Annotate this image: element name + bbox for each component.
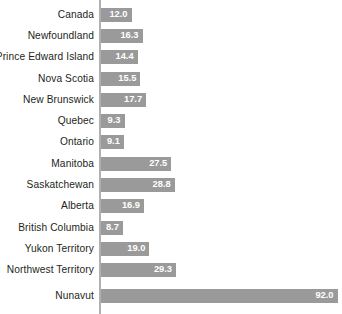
bar-value-label: 28.8 <box>153 180 171 189</box>
category-label: British Columbia <box>18 222 94 232</box>
bar-value-label: 29.3 <box>154 266 172 275</box>
bar-value-label: 27.5 <box>149 159 167 168</box>
category-label: Ontario <box>60 137 94 147</box>
bar: 19.0 <box>101 242 150 256</box>
table-row: Canada 12.0 <box>0 8 342 22</box>
category-label: Saskatchewan <box>27 180 94 190</box>
category-label: Alberta <box>61 201 94 211</box>
bar-value-label: 12.0 <box>109 10 127 19</box>
bar: 14.4 <box>101 50 138 64</box>
table-row: Quebec 9.3 <box>0 114 342 128</box>
table-row: Manitoba 27.5 <box>0 157 342 171</box>
category-label: Quebec <box>58 116 94 126</box>
bar: 9.3 <box>101 114 125 128</box>
bar: 15.5 <box>101 72 141 86</box>
bar-chart: Canada 12.0 Newfoundland 16.3 Prince Edw… <box>0 0 342 314</box>
bar: 17.7 <box>101 93 147 107</box>
bar-value-label: 16.9 <box>122 202 140 211</box>
table-row: British Columbia 8.7 <box>0 221 342 235</box>
category-label: Prince Edward Island <box>0 52 94 62</box>
category-label: Yukon Territory <box>25 244 94 254</box>
bar: 27.5 <box>101 157 172 171</box>
bar-value-label: 19.0 <box>127 244 145 253</box>
bar: 16.9 <box>101 199 145 213</box>
table-row: Nova Scotia 15.5 <box>0 72 342 86</box>
bar-value-label: 16.3 <box>120 31 138 40</box>
table-row: Saskatchewan 28.8 <box>0 178 342 192</box>
bar: 16.3 <box>101 29 143 43</box>
table-row: Prince Edward Island 14.4 <box>0 50 342 64</box>
bar: 9.1 <box>101 135 124 149</box>
table-row: Northwest Territory 29.3 <box>0 263 342 277</box>
table-row: Ontario 9.1 <box>0 135 342 149</box>
bar-value-label: 15.5 <box>118 74 136 83</box>
table-row: Yukon Territory 19.0 <box>0 242 342 256</box>
category-label: Nova Scotia <box>38 73 94 83</box>
bar-value-label: 14.4 <box>115 52 133 61</box>
bar-value-label: 9.1 <box>107 138 120 147</box>
category-label: Newfoundland <box>28 31 94 41</box>
bar-value-label: 9.3 <box>108 116 121 125</box>
bar: 12.0 <box>101 8 132 22</box>
category-label: Manitoba <box>51 159 94 169</box>
bar: 92.0 <box>101 289 338 303</box>
table-row: New Brunswick 17.7 <box>0 93 342 107</box>
table-row: Newfoundland 16.3 <box>0 29 342 43</box>
table-row: Alberta 16.9 <box>0 199 342 213</box>
bar-rows: Canada 12.0 Newfoundland 16.3 Prince Edw… <box>0 0 342 314</box>
category-label: Canada <box>58 10 94 20</box>
bar-value-label: 8.7 <box>106 223 119 232</box>
category-label: Nunavut <box>55 290 94 300</box>
bar: 8.7 <box>101 221 123 235</box>
bar-value-label: 17.7 <box>124 95 142 104</box>
category-label: New Brunswick <box>23 95 94 105</box>
bar: 29.3 <box>101 263 177 277</box>
bar-value-label: 92.0 <box>315 291 333 300</box>
category-label: Northwest Territory <box>7 265 94 275</box>
bar: 28.8 <box>101 178 175 192</box>
table-row: Nunavut 92.0 <box>0 289 342 303</box>
